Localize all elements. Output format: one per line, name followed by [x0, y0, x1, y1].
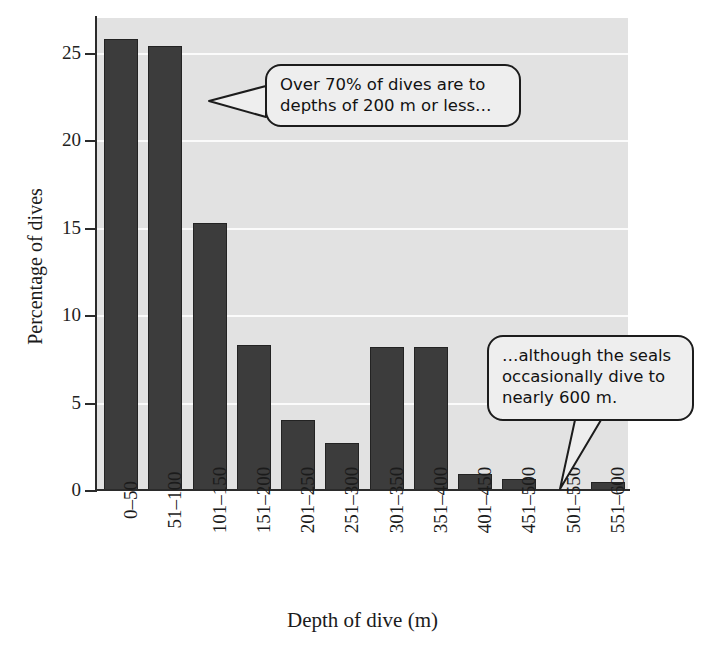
x-tick-label-151–200: 151–200	[232, 498, 276, 608]
x-tick-label-text: 351–400	[431, 467, 451, 534]
callout-nearly-600m: …although the seals occasionally dive to…	[487, 335, 694, 421]
x-tick-label-251–300: 251–300	[320, 498, 364, 608]
dive-depth-histogram-figure: 0510152025 0–5051–100101–150151–200201–2…	[0, 0, 722, 652]
x-tick-label-text: 101–150	[210, 467, 230, 534]
bar-101–150	[193, 223, 227, 490]
callout-1-line-1: Over 70% of dives are to	[280, 74, 506, 95]
x-tick-label-text: 551–600	[608, 467, 628, 534]
callout-over-70-percent: Over 70% of dives are to depths of 200 m…	[265, 64, 521, 127]
y-tick-mark-5	[85, 403, 97, 405]
x-tick-label-201–250: 201–250	[276, 498, 320, 608]
y-tick-label-text: 5	[41, 393, 81, 412]
y-tick-mark-25	[85, 53, 97, 55]
x-tick-label-text: 51–100	[165, 472, 185, 529]
x-tick-label-text: 301–350	[387, 467, 407, 534]
y-tick-label-text: 20	[41, 130, 81, 149]
x-tick-label-551–600: 551–600	[586, 498, 630, 608]
x-tick-label-text: 451–500	[519, 467, 539, 534]
x-tick-label-401–450: 401–450	[453, 498, 497, 608]
x-tick-label-351–400: 351–400	[409, 498, 453, 608]
x-tick-label-501–550: 501–550	[542, 498, 586, 608]
bar-0–50	[104, 39, 138, 490]
x-tick-label-101–150: 101–150	[188, 498, 232, 608]
y-tick-label-25: 25	[25, 43, 81, 62]
y-tick-label-text: 25	[41, 43, 81, 62]
callout-2-line-2: occasionally dive to	[502, 366, 679, 387]
x-tick-label-text: 401–450	[475, 467, 495, 534]
y-tick-mark-10	[85, 315, 97, 317]
callout-2-line-3: nearly 600 m.	[502, 387, 679, 408]
x-tick-label-text: 251–300	[342, 467, 362, 534]
x-tick-label-51–100: 51–100	[143, 498, 187, 608]
y-tick-label-text: 10	[41, 305, 81, 324]
callout-2-line-1: …although the seals	[502, 345, 679, 366]
callout-1-line-2: depths of 200 m or less…	[280, 95, 506, 116]
y-tick-mark-0	[85, 490, 97, 492]
y-axis-title: Percentage of dives	[24, 127, 47, 407]
y-axis-line	[95, 16, 97, 492]
y-tick-mark-15	[85, 228, 97, 230]
x-tick-label-451–500: 451–500	[497, 498, 541, 608]
x-tick-label-301–350: 301–350	[365, 498, 409, 608]
x-tick-label-text: 201–250	[298, 467, 318, 534]
x-tick-label-text: 0–50	[121, 481, 141, 519]
x-tick-label-text: 501–550	[564, 467, 584, 534]
y-tick-label-text: 0	[41, 480, 81, 499]
y-tick-label-0: 0	[25, 480, 81, 499]
y-tick-label-text: 15	[41, 218, 81, 237]
x-axis-title: Depth of dive (m)	[97, 608, 628, 633]
bar-51–100	[148, 46, 182, 490]
x-tick-label-0–50: 0–50	[99, 498, 143, 608]
y-tick-mark-20	[85, 140, 97, 142]
x-tick-label-text: 151–200	[254, 467, 274, 534]
